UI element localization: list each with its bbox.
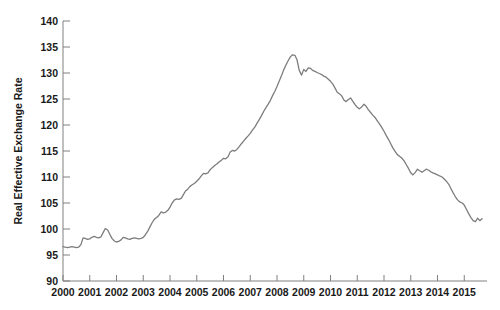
x-tick-label: 2000	[51, 286, 75, 298]
x-tick-label: 2007	[239, 286, 263, 298]
x-tick-label: 2011	[346, 286, 369, 298]
y-tick-label: 135	[40, 41, 58, 53]
y-tick-label: 115	[41, 145, 58, 157]
x-tick-label: 2008	[265, 286, 289, 298]
x-tick-label: 2002	[105, 286, 129, 298]
y-tick-label: 130	[40, 67, 58, 79]
y-tick-label: 100	[40, 223, 58, 235]
y-tick-label: 120	[40, 119, 58, 131]
x-tick-label: 2006	[212, 286, 236, 298]
y-tick-label: 110	[41, 171, 58, 183]
x-tick-label: 2005	[185, 286, 209, 298]
x-tick-label: 2012	[372, 286, 396, 298]
real-effective-exchange-rate-line-chart: 9095100105110115120125130135140 20002001…	[0, 0, 500, 310]
x-tick-label: 2014	[426, 286, 450, 298]
y-tick-label: 125	[40, 93, 58, 105]
x-tick-label: 2004	[158, 286, 182, 298]
series-line-0	[63, 55, 482, 248]
x-tick-label: 2003	[132, 286, 156, 298]
y-tick-label: 105	[40, 197, 58, 209]
x-tick-label: 2001	[78, 286, 102, 298]
y-tick-label: 90	[46, 275, 58, 287]
x-axis-ticks: 2000200120022003200420052006200720082009…	[51, 275, 476, 298]
y-tick-label: 140	[40, 15, 58, 27]
x-tick-label: 2015	[453, 286, 477, 298]
x-tick-label: 2010	[319, 286, 343, 298]
y-axis-ticks: 9095100105110115120125130135140	[40, 15, 70, 287]
y-tick-label: 95	[46, 249, 58, 261]
series-layer	[63, 55, 482, 248]
x-tick-label: 2009	[292, 286, 316, 298]
chart-container: 9095100105110115120125130135140 20002001…	[0, 0, 500, 310]
x-tick-label: 2013	[399, 286, 423, 298]
y-axis-title: Real Effective Exchange Rate	[12, 77, 24, 224]
